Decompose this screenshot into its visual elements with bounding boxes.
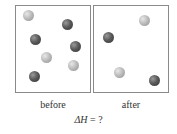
before-label: before: [15, 99, 91, 110]
light-molecule-icon: [68, 60, 79, 71]
dark-molecule-icon: [30, 34, 41, 45]
light-molecule-icon: [41, 52, 52, 63]
light-molecule-icon: [139, 15, 150, 26]
dark-molecule-icon: [149, 75, 160, 86]
light-molecule-icon: [23, 10, 34, 21]
dark-molecule-icon: [70, 41, 81, 52]
equation-rest: = ?: [88, 114, 103, 125]
light-molecule-icon: [114, 67, 125, 78]
delta-h-symbol: ΔH: [74, 114, 87, 125]
enthalpy-question: ΔH = ?: [0, 114, 177, 125]
dark-molecule-icon: [29, 71, 40, 82]
dark-molecule-icon: [62, 19, 73, 30]
dark-molecule-icon: [103, 32, 114, 43]
after-label: after: [93, 99, 169, 110]
